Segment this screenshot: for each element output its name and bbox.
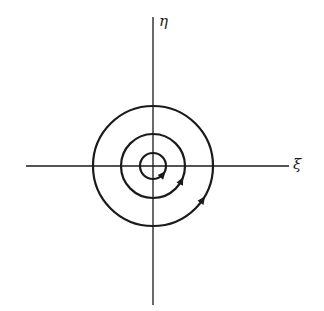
- eta-axis-label: η: [159, 14, 168, 29]
- phase-portrait-diagram: η ξ: [0, 0, 324, 311]
- direction-arrows: [158, 171, 205, 205]
- diagram-canvas: [0, 0, 324, 311]
- xi-axis-label: ξ: [293, 157, 301, 172]
